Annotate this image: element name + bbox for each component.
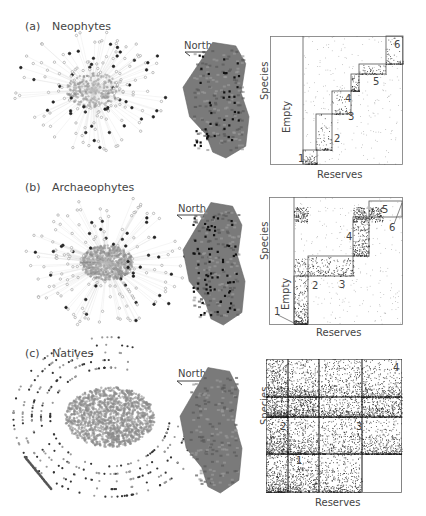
incidence-matrix: 123456Empty <box>269 197 403 325</box>
y-axis-label: Species <box>259 62 270 101</box>
network-graph <box>15 32 195 172</box>
svg-text:1: 1 <box>298 153 304 164</box>
network-graph <box>20 362 190 502</box>
svg-text:6: 6 <box>394 39 400 50</box>
svg-text:1: 1 <box>296 455 302 466</box>
reserve-map <box>183 200 253 325</box>
panel-natives: (c) Natives North Species 1234 Reserves <box>0 340 426 516</box>
panel-letter: (c) <box>25 347 40 360</box>
svg-text:Empty: Empty <box>281 101 292 133</box>
panel-neophytes: (a) Neophytes North Species 123456Empty … <box>0 0 426 170</box>
panel-title: Archaeophytes <box>52 181 134 194</box>
reserve-map <box>183 40 253 160</box>
svg-text:4: 4 <box>346 231 352 242</box>
network-graph <box>15 195 195 335</box>
svg-text:4: 4 <box>345 93 351 104</box>
svg-text:2: 2 <box>334 133 340 144</box>
svg-text:2: 2 <box>280 421 286 432</box>
svg-text:3: 3 <box>339 279 345 290</box>
x-axis-label: Reserves <box>315 497 360 508</box>
svg-text:4: 4 <box>393 362 399 373</box>
incidence-matrix: 123456Empty <box>270 36 403 168</box>
reserve-map <box>180 365 250 495</box>
panel-letter: (b) <box>25 181 41 194</box>
panel-title: Natives <box>52 347 93 360</box>
svg-text:3: 3 <box>356 421 362 432</box>
svg-text:Empty: Empty <box>280 278 291 310</box>
x-axis-label: Reserves <box>316 327 361 338</box>
incidence-matrix: 1234 <box>266 359 402 493</box>
svg-text:5: 5 <box>373 76 379 87</box>
svg-text:5: 5 <box>382 204 388 215</box>
svg-text:2: 2 <box>312 280 318 291</box>
svg-text:3: 3 <box>348 111 354 122</box>
panel-archaeophytes: (b) Archaeophytes North Species 123456Em… <box>0 170 426 340</box>
